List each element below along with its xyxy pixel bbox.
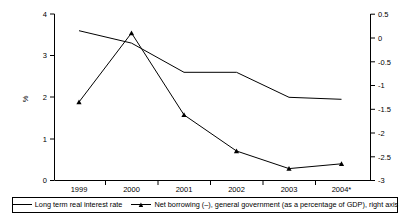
series-layer xyxy=(76,30,344,170)
left-tick-1: 1 xyxy=(43,135,47,144)
left-tick-3: 3 xyxy=(43,51,47,60)
legend-label-interest-rate: Long term real interest rate xyxy=(35,201,123,208)
x-tick-2002: 2002 xyxy=(228,185,245,194)
chart-plot-area: 0 1 2 3 4 % -3 -2.5 -2 -1.5 -1 -0.5 0 xyxy=(0,0,413,221)
x-tick-1999: 1999 xyxy=(71,185,88,194)
right-tick-m3: -3 xyxy=(378,176,385,185)
data-point-marker xyxy=(129,30,134,35)
right-tick-m2: -2 xyxy=(378,129,385,138)
left-tick-4: 4 xyxy=(43,10,47,19)
legend-line-icon xyxy=(12,201,32,208)
left-axis-ticks xyxy=(50,14,55,181)
right-tick-m25: -2.5 xyxy=(378,153,391,162)
chart-container: 0 1 2 3 4 % -3 -2.5 -2 -1.5 -1 -0.5 0 xyxy=(0,0,413,221)
right-tick-m15: -1.5 xyxy=(378,105,391,114)
left-tick-0: 0 xyxy=(43,176,47,185)
legend-line-triangle-icon xyxy=(131,201,151,208)
right-tick-m1: -1 xyxy=(378,81,385,90)
right-axis-ticks xyxy=(371,14,376,180)
data-point-marker xyxy=(234,148,239,153)
right-tick-0: 0 xyxy=(378,34,382,43)
right-tick-05: 0.5 xyxy=(378,10,388,19)
x-tick-2001: 2001 xyxy=(176,185,193,194)
right-axis-tick-labels: -3 -2.5 -2 -1.5 -1 -0.5 0 0.5 xyxy=(378,10,391,185)
x-tick-2004: 2004* xyxy=(332,185,352,194)
legend-item-net-borrowing: Net borrowing (–), general government (a… xyxy=(131,201,398,208)
right-tick-m05: -0.5 xyxy=(378,58,391,67)
legend-label-net-borrowing: Net borrowing (–), general government (a… xyxy=(154,201,398,208)
legend-item-interest-rate: Long term real interest rate xyxy=(12,201,123,208)
data-point-marker xyxy=(181,112,186,117)
series-line-1 xyxy=(79,33,342,169)
y-axis-title: % xyxy=(21,95,30,102)
chart-legend: Long term real interest rate Net borrowi… xyxy=(12,197,398,213)
left-axis-tick-labels: 0 1 2 3 4 xyxy=(43,10,47,186)
x-axis-tick-labels: 1999 2000 2001 2002 2003 2004* xyxy=(71,185,352,194)
x-tick-2003: 2003 xyxy=(281,185,298,194)
x-tick-2000: 2000 xyxy=(123,185,140,194)
left-tick-2: 2 xyxy=(43,93,47,102)
series-line-0 xyxy=(79,31,342,100)
